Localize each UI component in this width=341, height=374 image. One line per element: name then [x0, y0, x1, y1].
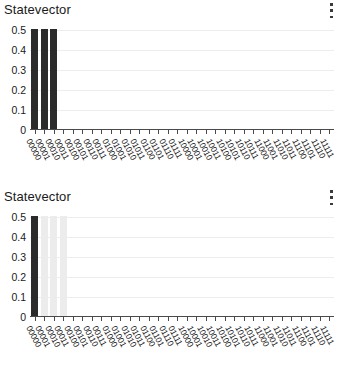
statevector-panel: Statevector00.10.20.30.40.50000000001000…	[0, 187, 341, 374]
x-axis-tick	[253, 317, 254, 321]
x-axis-tick	[196, 317, 197, 321]
x-axis-tick	[168, 317, 169, 321]
x-axis-tick	[139, 130, 140, 134]
x-axis-tick	[73, 130, 74, 134]
panel-header: Statevector	[0, 0, 341, 22]
x-axis-tick	[187, 317, 188, 321]
x-axis-tick	[291, 130, 292, 134]
y-axis-tick-label: 0	[20, 311, 26, 323]
statevector-panel: Statevector00.10.20.30.40.50000000001000…	[0, 0, 341, 187]
y-axis-tick-label: 0.2	[11, 84, 26, 96]
y-axis-tick-label: 0.3	[11, 251, 26, 263]
x-axis-tick	[301, 130, 302, 134]
x-axis-tick	[177, 130, 178, 134]
panel-title: Statevector	[4, 2, 71, 17]
x-axis-tick	[206, 130, 207, 134]
bar[interactable]	[50, 29, 57, 129]
x-axis-tick	[329, 130, 330, 134]
y-axis-tick-label: 0.2	[11, 271, 26, 283]
x-axis-tick	[206, 317, 207, 321]
y-axis-tick-label: 0	[20, 124, 26, 136]
x-axis-tick	[120, 317, 121, 321]
bar-chart: 00.10.20.30.40.5000000000100010000110010…	[0, 209, 341, 374]
x-axis-tick	[101, 130, 102, 134]
x-axis-tick	[158, 130, 159, 134]
x-axis-tick	[234, 130, 235, 134]
x-axis-tick	[54, 317, 55, 321]
y-axis-tick-label: 0.5	[11, 24, 26, 36]
x-axis-tick	[111, 130, 112, 134]
bar-series	[30, 216, 334, 316]
bar[interactable]	[31, 216, 38, 316]
x-axis-tick	[92, 130, 93, 134]
x-axis-tick	[253, 130, 254, 134]
y-axis-tick-label: 0.4	[11, 231, 26, 243]
y-axis-tick-label: 0.1	[11, 104, 26, 116]
x-axis-tick	[234, 317, 235, 321]
kebab-menu-icon[interactable]	[330, 190, 333, 205]
x-axis-tick	[196, 130, 197, 134]
bar[interactable]	[41, 216, 48, 316]
cut-off-footer	[0, 368, 341, 374]
x-axis-tick	[225, 317, 226, 321]
y-axis-tick-label: 0.3	[11, 64, 26, 76]
x-axis-tick	[63, 317, 64, 321]
bar[interactable]	[50, 216, 57, 316]
x-axis-tick	[272, 317, 273, 321]
x-axis-tick	[282, 317, 283, 321]
x-axis-labels: 0000000001000100001100100001010011000111…	[30, 322, 334, 374]
y-axis-tick-label: 0.4	[11, 44, 26, 56]
x-axis-tick	[215, 317, 216, 321]
x-axis-labels: 0000000001000100001100100001010011000111…	[30, 135, 334, 187]
x-axis-tick	[168, 130, 169, 134]
x-axis-tick	[310, 130, 311, 134]
x-axis-tick	[101, 317, 102, 321]
bar[interactable]	[41, 29, 48, 129]
panel-title: Statevector	[4, 189, 71, 204]
x-axis-tick	[301, 317, 302, 321]
x-axis-tick	[63, 130, 64, 134]
panel-header: Statevector	[0, 187, 341, 209]
x-axis-tick	[187, 130, 188, 134]
x-axis-tick	[320, 130, 321, 134]
x-axis-tick	[54, 130, 55, 134]
x-axis-tick	[244, 130, 245, 134]
x-axis-tick	[111, 317, 112, 321]
x-axis-tick	[139, 317, 140, 321]
x-axis-tick	[35, 317, 36, 321]
bar[interactable]	[31, 29, 38, 129]
x-axis-tick	[120, 130, 121, 134]
x-axis-ticks	[30, 130, 334, 134]
x-axis-tick	[44, 130, 45, 134]
x-axis-tick	[149, 130, 150, 134]
bar-chart: 00.10.20.30.40.5000000000100010000110010…	[0, 22, 341, 187]
x-axis-tick	[149, 317, 150, 321]
x-axis-tick	[158, 317, 159, 321]
x-axis-tick	[35, 130, 36, 134]
x-axis-tick	[82, 130, 83, 134]
plot-area: 00.10.20.30.40.5000000000100010000110010…	[30, 30, 334, 130]
y-axis-tick-label: 0.5	[11, 211, 26, 223]
x-axis-tick	[310, 317, 311, 321]
y-axis-tick-label: 0.1	[11, 291, 26, 303]
x-axis-tick	[282, 130, 283, 134]
x-axis-tick	[291, 317, 292, 321]
x-axis-tick	[177, 317, 178, 321]
kebab-menu-icon[interactable]	[330, 3, 333, 18]
x-axis-tick	[130, 317, 131, 321]
x-axis-tick	[225, 130, 226, 134]
x-axis-tick	[272, 130, 273, 134]
x-axis-tick	[44, 317, 45, 321]
x-axis-tick	[329, 317, 330, 321]
bar-series	[30, 29, 334, 129]
x-axis-tick	[92, 317, 93, 321]
x-axis-tick	[320, 317, 321, 321]
bar[interactable]	[60, 216, 67, 316]
x-axis-tick	[263, 317, 264, 321]
x-axis-tick	[263, 130, 264, 134]
x-axis-tick	[244, 317, 245, 321]
x-axis-tick	[73, 317, 74, 321]
x-axis-tick	[215, 130, 216, 134]
x-axis-tick	[130, 130, 131, 134]
x-axis-tick	[82, 317, 83, 321]
